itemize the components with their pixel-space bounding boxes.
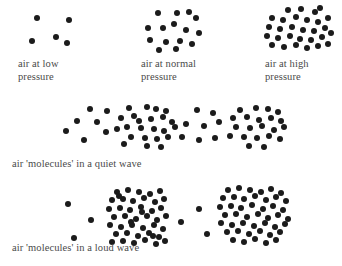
molecule-dot	[201, 123, 207, 129]
molecule-dot	[114, 126, 120, 132]
molecule-dot	[173, 46, 179, 52]
molecule-dot	[216, 119, 222, 125]
molecule-dot	[71, 235, 77, 241]
molecule-dot	[94, 119, 100, 125]
molecule-dot	[235, 228, 241, 234]
molecule-dot	[147, 191, 153, 197]
molecule-dot	[249, 202, 255, 208]
molecule-dot	[144, 104, 150, 110]
molecule-dot	[149, 208, 155, 214]
air-molecule-diagram: air at low pressure air at normal pressu…	[0, 0, 342, 266]
molecule-dot	[304, 17, 310, 23]
molecule-dot	[300, 27, 306, 33]
molecule-dot	[111, 214, 117, 220]
molecule-dot	[241, 196, 247, 202]
molecule-dot	[298, 6, 304, 12]
molecule-dot	[261, 144, 267, 150]
molecule-dot	[145, 25, 151, 31]
molecule-dot	[66, 17, 72, 23]
molecule-dot	[308, 37, 314, 43]
molecule-dot	[266, 24, 272, 30]
molecule-dot	[262, 220, 268, 226]
molecule-dot	[128, 134, 134, 140]
molecule-dot	[260, 206, 266, 212]
molecule-dot	[277, 229, 283, 235]
molecule-dot	[212, 135, 218, 141]
molecule-dot	[107, 222, 113, 228]
molecule-dot	[178, 219, 184, 225]
molecule-dot	[117, 205, 123, 211]
molecule-dot	[81, 137, 87, 143]
molecule-dot	[151, 126, 157, 132]
molecule-dot	[121, 141, 127, 147]
molecule-dot	[156, 47, 162, 53]
molecule-dot	[281, 124, 287, 130]
molecule-dot	[113, 231, 119, 237]
molecule-dot	[229, 222, 235, 228]
molecule-dot	[148, 116, 154, 122]
molecule-dot	[218, 220, 224, 226]
molecule-dot	[237, 107, 243, 113]
molecule-dot	[189, 41, 195, 47]
molecule-dot	[179, 134, 185, 140]
molecule-dot	[252, 236, 258, 242]
molecule-dot	[259, 123, 265, 129]
molecule-dot	[153, 241, 159, 247]
molecule-dot	[194, 107, 200, 113]
molecule-dot	[224, 229, 230, 235]
molecule-dot	[275, 109, 281, 115]
molecule-dot	[160, 114, 166, 120]
molecule-dot	[246, 143, 252, 149]
molecule-dot	[277, 136, 283, 142]
molecule-dot	[266, 133, 272, 139]
molecule-dot	[158, 205, 164, 211]
molecule-dot	[273, 194, 279, 200]
molecule-dot	[138, 125, 144, 131]
molecule-dot	[255, 211, 261, 217]
molecule-dot	[158, 144, 164, 150]
molecule-dot	[283, 198, 289, 204]
molecule-dot	[277, 26, 283, 32]
molecule-dot	[196, 206, 202, 212]
molecule-dot	[183, 27, 189, 33]
molecule-dot	[325, 41, 331, 47]
molecule-dot	[157, 188, 163, 194]
molecule-dot	[151, 222, 157, 228]
molecule-dot	[163, 39, 169, 45]
molecule-dot	[122, 213, 128, 219]
molecule-dot	[174, 10, 180, 16]
molecule-dot	[241, 239, 247, 245]
molecule-dot	[233, 211, 239, 217]
molecule-dot	[125, 187, 131, 193]
molecule-dot	[273, 237, 279, 243]
molecule-dot	[147, 37, 153, 43]
molecule-dot	[280, 17, 286, 23]
molecule-dot	[152, 199, 158, 205]
molecule-dot	[136, 189, 142, 195]
molecule-dot	[109, 197, 115, 203]
molecule-dot	[322, 25, 328, 31]
molecule-dot	[222, 212, 228, 218]
molecule-dot	[319, 34, 325, 40]
molecule-dot	[183, 121, 189, 127]
molecule-dot	[136, 118, 142, 124]
molecule-dot	[225, 187, 231, 193]
molecule-dot	[275, 35, 281, 41]
molecule-dot	[268, 186, 274, 192]
molecule-dot	[275, 212, 281, 218]
molecule-dot	[233, 124, 239, 130]
molecule-dot	[267, 232, 273, 238]
molecule-dot	[172, 124, 178, 130]
molecule-dot	[142, 135, 148, 141]
molecule-dot	[186, 9, 192, 15]
molecule-dot	[88, 217, 94, 223]
molecule-dot	[53, 34, 59, 40]
molecule-dot	[254, 135, 260, 141]
molecule-dot	[252, 193, 258, 199]
molecule-dot	[124, 230, 130, 236]
molecule-dot	[228, 203, 234, 209]
molecule-dot	[269, 15, 275, 21]
molecule-dot	[231, 194, 237, 200]
molecule-dot	[160, 25, 166, 31]
molecule-dot	[177, 38, 183, 44]
